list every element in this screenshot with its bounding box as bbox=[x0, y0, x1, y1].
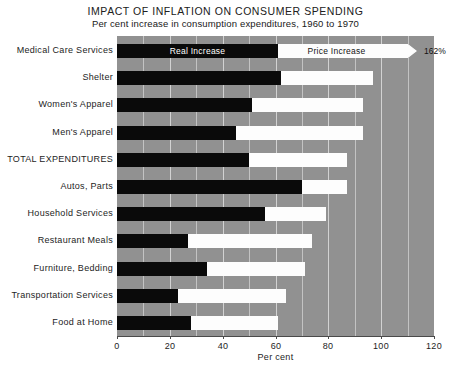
bar-value-label: 162% bbox=[424, 44, 446, 58]
bar-segment-real-increase[interactable] bbox=[117, 180, 302, 194]
x-tick-mark bbox=[434, 336, 435, 339]
bar-segment-real-increase[interactable] bbox=[117, 98, 252, 112]
x-tick-label: 60 bbox=[256, 341, 296, 351]
bar-row[interactable] bbox=[117, 71, 373, 85]
category-label: Furniture, Bedding bbox=[1, 263, 113, 273]
bar-row[interactable] bbox=[117, 289, 286, 303]
bar-row[interactable] bbox=[117, 234, 312, 248]
x-tick-mark bbox=[276, 336, 277, 339]
category-label: Autos, Parts bbox=[1, 181, 113, 191]
chart-subtitle: Per cent increase in consumption expendi… bbox=[0, 18, 451, 29]
bar-segment-price-increase[interactable] bbox=[188, 234, 312, 248]
x-tick-label: 0 bbox=[97, 341, 137, 351]
category-axis-labels: Medical Care ServicesShelterWomen's Appa… bbox=[0, 36, 113, 336]
category-label: Transportation Services bbox=[1, 290, 113, 300]
bar-row[interactable] bbox=[117, 126, 363, 140]
bar-segment-price-increase[interactable] bbox=[302, 180, 347, 194]
category-label: Restaurant Meals bbox=[1, 235, 113, 245]
bar-row[interactable] bbox=[117, 153, 347, 167]
bar-segment-real-increase[interactable] bbox=[117, 234, 188, 248]
category-label: Men's Apparel bbox=[1, 127, 113, 137]
bar-segment-real-increase[interactable] bbox=[117, 71, 281, 85]
x-tick-label: 20 bbox=[150, 341, 190, 351]
bar-segment-price-increase[interactable] bbox=[281, 71, 373, 85]
bar-row[interactable] bbox=[117, 207, 326, 221]
gridline-100 bbox=[381, 36, 382, 336]
bar-segment-price-increase[interactable] bbox=[191, 316, 278, 330]
chart-title: IMPACT OF INFLATION ON CONSUMER SPENDING bbox=[0, 5, 451, 17]
bar-row[interactable]: Real IncreasePrice Increase bbox=[117, 44, 421, 58]
bar-segment-real-increase[interactable] bbox=[117, 289, 178, 303]
x-tick-mark bbox=[223, 336, 224, 339]
bar-segment-real-increase[interactable] bbox=[117, 126, 236, 140]
bar-row[interactable] bbox=[117, 98, 363, 112]
bar-segment-real-increase[interactable] bbox=[117, 262, 207, 276]
x-tick-mark bbox=[381, 336, 382, 339]
gridline-110 bbox=[408, 36, 409, 336]
bar-segment-price-increase[interactable] bbox=[249, 153, 347, 167]
bar-segment-real-increase[interactable] bbox=[117, 153, 249, 167]
category-label: Medical Care Services bbox=[1, 45, 113, 55]
legend-label-real-increase: Real Increase bbox=[117, 44, 278, 58]
category-label: TOTAL EXPENDITURES bbox=[1, 154, 113, 164]
category-label: Shelter bbox=[1, 72, 113, 82]
bar-segment-real-increase[interactable] bbox=[117, 207, 265, 221]
x-tick-mark bbox=[328, 336, 329, 339]
category-label: Household Services bbox=[1, 208, 113, 218]
x-tick-label: 100 bbox=[361, 341, 401, 351]
bar-segment-price-increase[interactable] bbox=[265, 207, 326, 221]
bar-row[interactable] bbox=[117, 180, 347, 194]
x-tick-label: 40 bbox=[203, 341, 243, 351]
bar-row[interactable] bbox=[117, 262, 305, 276]
bar-segment-price-increase[interactable] bbox=[207, 262, 305, 276]
bar-row[interactable] bbox=[117, 316, 278, 330]
x-tick-mark bbox=[170, 336, 171, 339]
legend-label-price-increase: Price Increase bbox=[278, 44, 395, 58]
bar-segment-price-increase[interactable] bbox=[236, 126, 363, 140]
x-tick-label: 80 bbox=[308, 341, 348, 351]
bar-segment-price-increase[interactable] bbox=[252, 98, 363, 112]
bar-segment-price-increase[interactable] bbox=[178, 289, 286, 303]
x-tick-label: 120 bbox=[414, 341, 451, 351]
x-axis-title: Per cent bbox=[117, 352, 434, 362]
category-label: Women's Apparel bbox=[1, 99, 113, 109]
category-label: Food at Home bbox=[1, 317, 113, 327]
bar-segment-real-increase[interactable] bbox=[117, 316, 191, 330]
x-tick-mark bbox=[117, 336, 118, 339]
plot-area: Real IncreasePrice Increase162% bbox=[117, 36, 434, 336]
axis-break-icon bbox=[407, 44, 421, 58]
